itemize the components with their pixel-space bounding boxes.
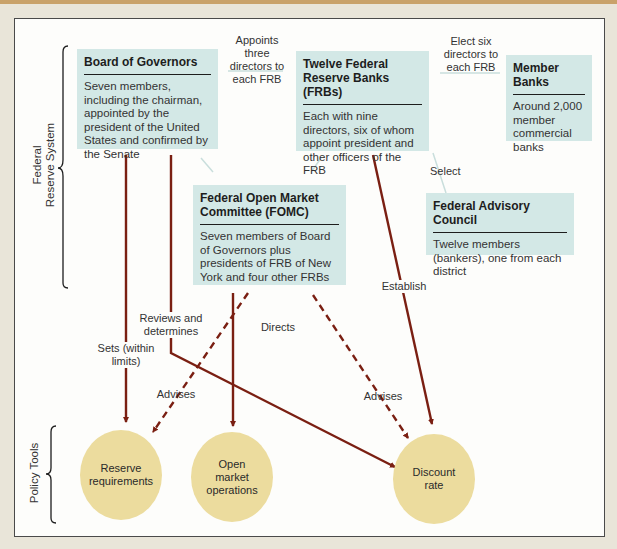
group-label-federal-reserve-system: Federal Reserve System — [31, 115, 61, 215]
advisory-council-description: Twelve members (bankers), one from each … — [433, 238, 567, 279]
frbs-box[interactable]: Twelve Federal Reserve Banks (FRBs) Each… — [296, 51, 429, 151]
board-of-governors-description: Seven members, including the chairman, a… — [84, 80, 211, 161]
group-label-line-2: Reserve System — [44, 115, 57, 215]
frbs-description: Each with nine directors, six of whom ap… — [303, 110, 422, 178]
policy-tool-label: Open market operations — [202, 458, 262, 497]
board-of-governors-box[interactable]: Board of Governors Seven members, includ… — [77, 49, 218, 149]
advisory-council-title: Federal Advisory Council — [433, 199, 567, 233]
board-of-governors-title: Board of Governors — [84, 55, 211, 75]
label-advises-left: Advises — [156, 388, 196, 401]
label-advises-right: Advises — [363, 390, 403, 403]
policy-tool-discount-rate[interactable]: Discount rate — [393, 434, 475, 524]
policy-tool-reserve-requirements[interactable]: Reserve requirements — [80, 430, 162, 520]
group-label-line-1: Federal — [31, 115, 44, 215]
label-sets: Sets (within limits) — [94, 342, 158, 368]
label-elect: Elect six directors to each FRB — [439, 35, 503, 74]
label-appoints: Appoints three directors to each FRB — [222, 34, 292, 86]
policy-tool-label: Reserve requirements — [88, 462, 154, 488]
advisory-council-box[interactable]: Federal Advisory Council Twelve members … — [426, 193, 574, 255]
policy-tool-open-market-operations[interactable]: Open market operations — [191, 432, 273, 522]
label-reviews: Reviews and determines — [138, 312, 204, 338]
policy-tool-label: Discount rate — [408, 466, 460, 492]
fomc-box[interactable]: Federal Open Market Committee (FOMC) Sev… — [193, 185, 346, 285]
label-establish: Establish — [381, 280, 427, 293]
group-label-policy-tools: Policy Tools — [28, 438, 42, 508]
label-directs: Directs — [258, 321, 298, 334]
frbs-title: Twelve Federal Reserve Banks (FRBs) — [303, 57, 422, 105]
member-banks-description: Around 2,000 member commercial banks — [513, 100, 585, 154]
member-banks-box[interactable]: Member Banks Around 2,000 member commerc… — [506, 55, 592, 141]
member-banks-title: Member Banks — [513, 61, 585, 95]
label-select: Select — [430, 165, 470, 178]
fomc-title: Federal Open Market Committee (FOMC) — [200, 191, 339, 225]
fomc-description: Seven members of Board of Governors plus… — [200, 230, 339, 284]
